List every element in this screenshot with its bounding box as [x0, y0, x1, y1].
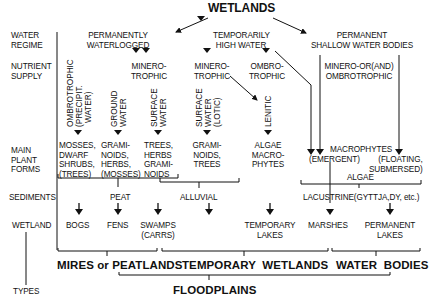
label-line: TREES, [144, 141, 173, 151]
label-line: OMBROTROPHIC [66, 59, 75, 127]
label-line: (TREES) [59, 170, 96, 180]
regime-permanent-shallow: PERMANENT SHALLOW WATER BODIES [310, 31, 414, 50]
label-line: HIGH WATER [213, 41, 269, 51]
label-line: LAKES [243, 231, 297, 241]
sediment-alluvial: ALLUVIAL [180, 193, 217, 203]
label-line: FORMS [11, 165, 40, 175]
label-line: PERMANENTLY [86, 31, 150, 41]
row-label-main-plant-forms: MAIN PLANT FORMS [11, 146, 40, 175]
type-water-bodies: WATER BODIES [336, 259, 428, 272]
label-line: WATERLOGGED [86, 41, 150, 51]
nutrient-minero-or-ombro: MINERO-OR(AND) OMBROTROPHIC [320, 62, 398, 81]
label-line: ALGAE [251, 141, 285, 151]
plants-trees-herbs: TREES, HERBS GRAMI- NOIDS [144, 141, 173, 179]
label-line: MINERO-OR(AND) [320, 62, 398, 72]
label-line: WATER [11, 31, 43, 41]
plants-graminoids-trees: GRAMI- NOIDS, TREES [190, 141, 224, 170]
label-line: TROPHIC [190, 72, 234, 82]
label-line: LAKES [364, 231, 416, 241]
label-line: TEMPORARY [243, 221, 297, 231]
wetland-temporary-lakes: TEMPORARY LAKES [243, 221, 297, 240]
label-line: NOIDS [144, 170, 173, 180]
nutrient-minerotrophic-2: MINERO- TROPHIC [190, 62, 234, 81]
type-temporary-wetlands: TEMPORARY WETLANDS [182, 259, 328, 272]
nutrient-minerotrophic-1: MINERO- TROPHIC [127, 62, 171, 81]
row-label-types: TYPES [13, 287, 39, 297]
regime-temporarily-high-water: TEMPORARILY HIGH WATER [213, 31, 269, 50]
label-line: SHRUBS, [59, 160, 96, 170]
label-line: HERBS, [101, 160, 141, 170]
label-line: (FLOATING, [369, 155, 423, 165]
plants-emergent: (EMERGENT) [309, 155, 360, 165]
label-line: WATER) [84, 59, 93, 127]
wetland-marshes: MARSHES [308, 221, 348, 231]
label-line: PLANT [11, 156, 40, 166]
nutrient-ombrotrophic: OMBRO- TROPHIC [247, 62, 287, 81]
source-lenitic: LENITIC [264, 96, 273, 127]
regime-permanently-waterlogged: PERMANENTLY WATERLOGGED [86, 31, 150, 50]
label-line: HERBS [144, 151, 173, 161]
label-line: SUBMERSED) [369, 165, 423, 175]
plants-algae: ALGAE [347, 173, 374, 183]
wetland-swamps: SWAMPS (CARRS) [140, 221, 176, 240]
label-line: MINERO- [190, 62, 234, 72]
label-line: PERMANENT [364, 221, 416, 231]
row-label-water-regime: WATER REGIME [11, 31, 43, 50]
label-line: SURFACE [195, 88, 204, 127]
label-line: PHYTES [251, 160, 285, 170]
label-line: WATER [204, 88, 213, 127]
label-line: TROPHIC [127, 72, 171, 82]
label-line: PERMANENT [310, 31, 414, 41]
label-line: TEMPORARILY [213, 31, 269, 41]
label-line: MACRO- [251, 151, 285, 161]
source-ground-water: GROUND WATER [110, 91, 128, 127]
label-line: GRAMI- [101, 141, 141, 151]
source-ombrotrophic-precip: OMBROTROPHIC (PRECIPIT. WATER) [66, 59, 93, 127]
label-line: NOIDS, [101, 151, 141, 161]
plants-algae-macrophytes: ALGAE MACRO- PHYTES [251, 141, 285, 170]
label-line: MINERO- [127, 62, 171, 72]
label-line: SURFACE [150, 88, 159, 127]
label-line: GRAMI- [144, 160, 173, 170]
label-line: LENITIC [264, 96, 273, 127]
label-line: (PRECIPIT. [75, 59, 84, 127]
label-line: MOSSES, [59, 141, 96, 151]
row-label-wetland: WETLAND [12, 221, 51, 231]
label-line: GRAMI- [190, 141, 224, 151]
sediment-lacustrine: LACUSTRINE(GYTTJA,DY, etc.) [303, 193, 419, 203]
label-line: TREES [190, 160, 224, 170]
label-line: SWAMPS [140, 221, 176, 231]
plants-floating-submersed: (FLOATING, SUBMERSED) [369, 155, 423, 174]
type-floodplains: FLOODPLAINS [173, 284, 257, 297]
wetland-fens: FENS [107, 221, 128, 231]
label-line: OMBROTROPHIC [320, 72, 398, 82]
label-line: NUTRIENT [11, 62, 52, 72]
label-line: WATER [159, 88, 168, 127]
label-line: NOIDS, [190, 151, 224, 161]
label-line: MAIN [11, 146, 40, 156]
label-line: (LOTIC) [213, 88, 222, 127]
label-line: SUPPLY [11, 72, 52, 82]
label-line: GROUND [110, 91, 119, 127]
label-line: (MOSSES) [101, 170, 141, 180]
plants-macrophytes: MACROPHYTES [330, 145, 392, 155]
wetland-permanent-lakes: PERMANENT LAKES [364, 221, 416, 240]
plants-graminoids-herbs: GRAMI- NOIDS, HERBS, (MOSSES) [101, 141, 141, 179]
sediment-peat: PEAT [110, 193, 130, 203]
label-line: OMBRO- [247, 62, 287, 72]
label-line: SHALLOW WATER BODIES [310, 41, 414, 51]
label-line: WATER [119, 91, 128, 127]
label-line: REGIME [11, 41, 43, 51]
row-label-sediments: SEDIMENTS [9, 193, 56, 203]
label-line: DWARF [59, 151, 96, 161]
source-surface-water-lotic: SURFACE WATER (LOTIC) [195, 88, 222, 127]
row-label-nutrient-supply: NUTRIENT SUPPLY [11, 62, 52, 81]
wetland-bogs: BOGS [66, 221, 89, 231]
plants-mosses: MOSSES, DWARF SHRUBS, (TREES) [59, 141, 96, 179]
label-line: TROPHIC [247, 72, 287, 82]
label-line: (CARRS) [140, 231, 176, 241]
type-mires-peatlands: MIRES or PEATLANDS [57, 259, 183, 272]
diagram-title: WETLANDS [208, 4, 275, 14]
source-surface-water: SURFACE WATER [150, 88, 168, 127]
